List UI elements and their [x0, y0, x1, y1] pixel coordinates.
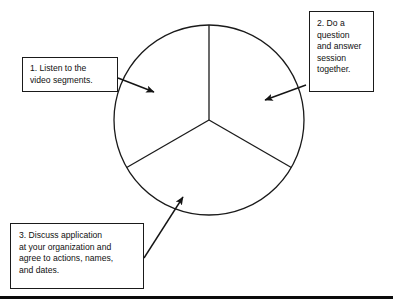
- callout-box-step-3: 3. Discuss application at your organizat…: [10, 223, 144, 289]
- callout-step-2-text: 2. Do a question and answer session toge…: [317, 18, 369, 76]
- arrow-callout-3: [144, 197, 183, 258]
- bottom-horizontal-rule: [0, 296, 393, 299]
- callout-step-3-text: 3. Discuss application at your organizat…: [19, 230, 138, 276]
- callout-box-step-2: 2. Do a question and answer session toge…: [309, 11, 374, 92]
- callout-step-1-text: 1. Listen to the video segments.: [30, 63, 111, 86]
- callout-box-step-1: 1. Listen to the video segments.: [22, 57, 118, 92]
- diagram-canvas: 1. Listen to the video segments. 2. Do a…: [0, 0, 393, 306]
